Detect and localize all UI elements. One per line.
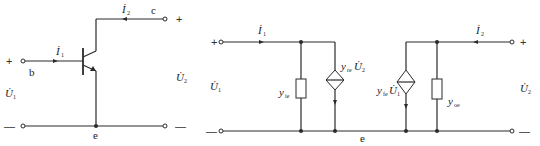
output-terminal-plus bbox=[163, 17, 167, 21]
yfe-u1-label: y fe U̇ 1 bbox=[376, 84, 400, 97]
output-terminal-minus bbox=[510, 129, 514, 133]
input-terminal-minus bbox=[219, 129, 223, 133]
output-terminal-minus bbox=[163, 124, 167, 128]
svg-text:2: 2 bbox=[528, 89, 531, 95]
svg-text:2: 2 bbox=[127, 10, 130, 16]
output-minus-sign: — bbox=[175, 120, 186, 132]
output-plus-sign: + bbox=[176, 13, 182, 25]
emitter-label: e bbox=[93, 129, 98, 141]
current-arrow-icon bbox=[473, 40, 478, 44]
output-plus-sign: + bbox=[520, 36, 526, 48]
svg-text:y: y bbox=[447, 95, 453, 107]
output-voltage-label: U̇ 2 bbox=[520, 82, 531, 95]
circuit-diagram: + — + — b c e İ 1 İ 2 U̇ 1 U̇ 2 bbox=[0, 0, 540, 146]
current-arrow-icon bbox=[259, 40, 264, 44]
svg-text:1: 1 bbox=[397, 91, 400, 97]
current-arrow-icon bbox=[404, 104, 408, 109]
input-terminal-plus bbox=[21, 59, 25, 63]
circuit-figure: + — + — b c e İ 1 İ 2 U̇ 1 U̇ 2 bbox=[0, 0, 540, 146]
svg-text:2: 2 bbox=[481, 31, 484, 37]
svg-text:1: 1 bbox=[218, 87, 221, 93]
svg-text:1: 1 bbox=[13, 94, 16, 100]
bjt-circuit: + — + — b c e İ 1 İ 2 U̇ 1 U̇ 2 bbox=[4, 3, 187, 141]
junction-node bbox=[94, 124, 98, 128]
input-terminal-minus bbox=[21, 124, 25, 128]
current-arrow-icon bbox=[53, 59, 58, 63]
svg-text:re: re bbox=[347, 67, 352, 73]
current-arrow-icon bbox=[333, 100, 337, 105]
y-parameter-circuit: + — + — e İ 1 İ 2 U̇ 1 U̇ 2 y ie y re U bbox=[206, 24, 531, 144]
input-current-label: İ 1 bbox=[55, 45, 64, 58]
svg-text:oe: oe bbox=[454, 102, 460, 108]
output-current-label: İ 2 bbox=[121, 3, 130, 16]
yie-label: y ie bbox=[278, 86, 290, 99]
svg-text:2: 2 bbox=[184, 78, 187, 84]
input-plus-sign: + bbox=[6, 55, 12, 67]
common-node-label: e bbox=[360, 132, 365, 144]
input-plus-sign: + bbox=[211, 36, 217, 48]
yoe-label: y oe bbox=[447, 95, 460, 108]
svg-text:y: y bbox=[278, 86, 284, 98]
svg-text:fe: fe bbox=[383, 91, 388, 97]
svg-text:1: 1 bbox=[263, 31, 266, 37]
current-arrow-icon bbox=[122, 17, 127, 21]
input-terminal-plus bbox=[219, 40, 223, 44]
svg-text:y: y bbox=[376, 84, 382, 96]
input-minus-sign: — bbox=[206, 125, 217, 137]
base-label: b bbox=[29, 66, 35, 78]
yre-u2-label: y re U̇ 2 bbox=[340, 60, 365, 73]
input-minus-sign: — bbox=[4, 120, 15, 132]
svg-text:1: 1 bbox=[61, 52, 64, 58]
collector-lead bbox=[83, 51, 96, 57]
input-voltage-label: U̇ 1 bbox=[210, 80, 221, 93]
input-voltage-label: U̇ 1 bbox=[5, 87, 16, 100]
output-minus-sign: — bbox=[519, 125, 530, 137]
yie-admittance-icon bbox=[296, 79, 306, 98]
svg-text:ie: ie bbox=[285, 93, 290, 99]
svg-text:y: y bbox=[340, 60, 346, 72]
output-terminal-plus bbox=[510, 40, 514, 44]
output-voltage-label: U̇ 2 bbox=[176, 71, 187, 84]
collector-label: c bbox=[151, 4, 156, 16]
output-current-label: İ 2 bbox=[475, 24, 484, 37]
svg-text:2: 2 bbox=[362, 67, 365, 73]
yoe-admittance-icon bbox=[432, 79, 442, 99]
input-current-label: İ 1 bbox=[257, 24, 266, 37]
